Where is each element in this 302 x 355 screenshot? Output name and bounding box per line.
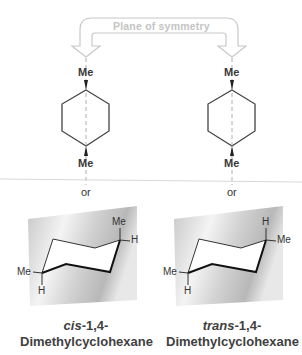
cis-locants: -1,4- — [82, 318, 109, 333]
plane-of-symmetry-label: Plane of symmetry — [113, 20, 210, 32]
trans-compound-name: trans-1,4- Dimethylcyclohexane — [166, 318, 298, 350]
cis-compound-name: cis-1,4- Dimethylcyclohexane — [20, 318, 152, 350]
trans-bottom-me-label: Me — [224, 157, 239, 169]
cis-chair-lower-axial-label: H — [38, 285, 45, 296]
cis-bottom-wedge — [84, 146, 88, 156]
trans-or-label: or — [227, 186, 237, 198]
divider-line — [0, 179, 302, 182]
trans-prefix: trans — [203, 318, 235, 333]
cis-or-label: or — [81, 186, 91, 198]
cis-top-wedge — [84, 80, 88, 90]
cis-bottom-me-label: Me — [78, 157, 93, 169]
cis-top-me-label: Me — [78, 66, 93, 78]
trans-locants: -1,4- — [235, 318, 262, 333]
trans-main-name: Dimethylcyclohexane — [166, 334, 299, 349]
trans-hexagon — [208, 90, 255, 146]
diagram-canvas — [0, 0, 302, 355]
cis-main-name: Dimethylcyclohexane — [20, 334, 153, 349]
cis-chair-upper-axial-label: Me — [112, 216, 126, 227]
trans-chair-upper-equatorial-label: Me — [277, 234, 291, 245]
cis-prefix: cis — [64, 318, 82, 333]
trans-top-me-label: Me — [224, 66, 239, 78]
trans-chair-lower-equatorial-label: Me — [163, 266, 177, 277]
cis-hexagon — [62, 90, 109, 146]
trans-bottom-hash — [230, 146, 234, 156]
trans-chair-lower-axial-label: H — [184, 285, 191, 296]
cis-chair-upper-equatorial-label: H — [131, 234, 138, 245]
cis-chair-lower-equatorial-label: Me — [17, 266, 31, 277]
trans-chair-upper-axial-label: H — [262, 216, 269, 227]
trans-top-wedge — [230, 80, 234, 90]
